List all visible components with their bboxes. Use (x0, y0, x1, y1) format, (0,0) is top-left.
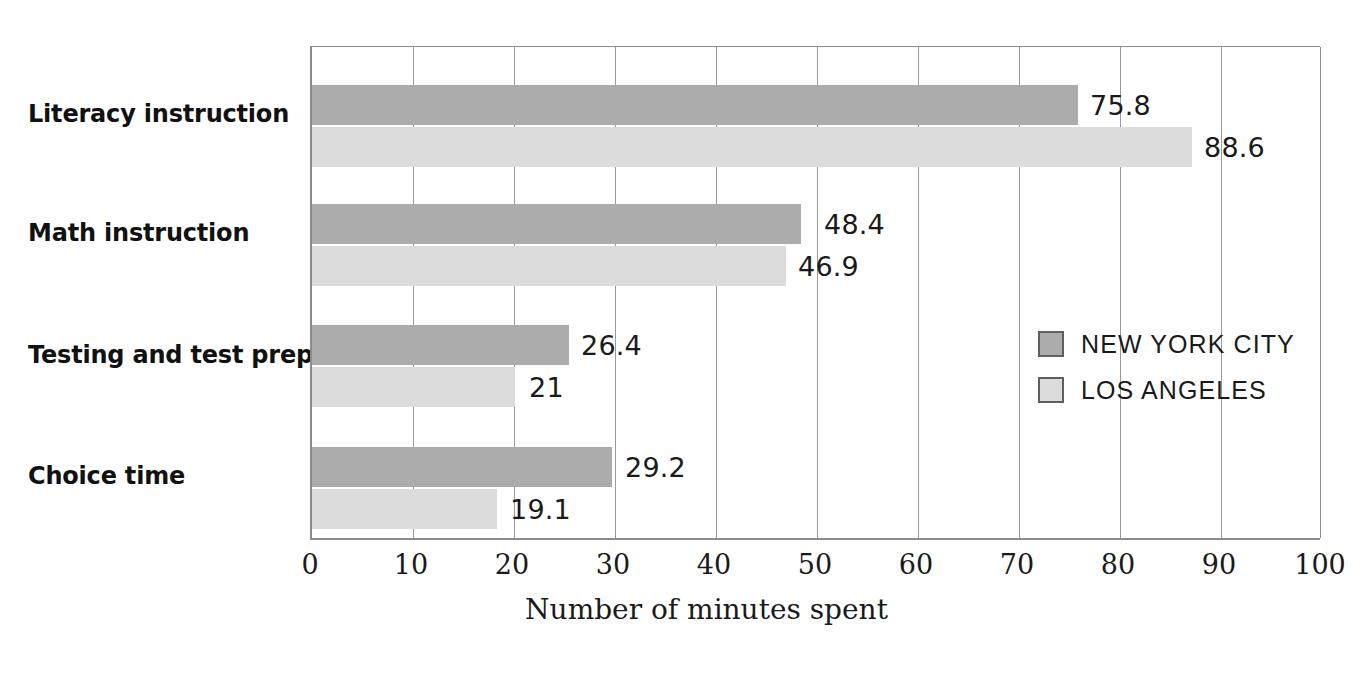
plot-area: 75.8 88.6 48.4 46.9 26.4 21 29.2 19.1 (310, 46, 1320, 540)
legend-swatch-los-angeles (1038, 377, 1064, 403)
x-axis-title: Number of minutes spent (0, 593, 1363, 626)
bar-math-instruction-la (312, 246, 786, 286)
legend-item-new-york-city: NEW YORK CITY (1038, 321, 1295, 367)
category-label-testing-and-test-prep: Testing and test prep (28, 341, 298, 369)
bar-value-math-instruction-nyc: 48.4 (824, 204, 885, 244)
bar-testing-and-test-prep-la (312, 367, 515, 407)
x-tick-30: 30 (573, 549, 653, 580)
x-tick-100: 100 (1280, 549, 1360, 580)
x-tick-80: 80 (1078, 549, 1158, 580)
category-label-math-instruction: Math instruction (28, 219, 298, 247)
bar-literacy-instruction-la (312, 127, 1192, 167)
bar-value-literacy-instruction-la: 88.6 (1204, 127, 1265, 167)
bar-testing-and-test-prep-nyc (312, 325, 569, 365)
legend-item-los-angeles: LOS ANGELES (1038, 367, 1295, 413)
page-scan-remnant (0, 0, 1363, 6)
x-tick-70: 70 (977, 549, 1057, 580)
legend: NEW YORK CITY LOS ANGELES (1038, 321, 1295, 413)
bar-value-testing-and-test-prep-nyc: 26.4 (581, 325, 642, 365)
x-tick-50: 50 (775, 549, 855, 580)
bar-choice-time-nyc (312, 447, 612, 487)
category-label-literacy-instruction: Literacy instruction (28, 100, 298, 128)
x-tick-10: 10 (371, 549, 451, 580)
bar-choice-time-la (312, 489, 497, 529)
x-tick-90: 90 (1179, 549, 1259, 580)
bar-math-instruction-nyc (312, 204, 801, 244)
bar-value-choice-time-nyc: 29.2 (625, 447, 686, 487)
bar-literacy-instruction-nyc (312, 85, 1078, 125)
horizontal-bar-chart: Literacy instruction Math instruction Te… (0, 0, 1363, 679)
x-tick-0: 0 (270, 549, 350, 580)
gridline-90 (1221, 47, 1222, 538)
bar-value-math-instruction-la: 46.9 (798, 246, 859, 286)
bar-value-literacy-instruction-nyc: 75.8 (1090, 85, 1151, 125)
bar-value-testing-and-test-prep-la: 21 (529, 367, 564, 407)
x-tick-40: 40 (674, 549, 754, 580)
x-tick-60: 60 (876, 549, 956, 580)
legend-label-los-angeles: LOS ANGELES (1081, 376, 1267, 405)
gridline-100 (1320, 47, 1321, 538)
legend-swatch-new-york-city (1038, 331, 1064, 357)
bar-value-choice-time-la: 19.1 (510, 489, 571, 529)
category-label-choice-time: Choice time (28, 462, 298, 490)
legend-label-new-york-city: NEW YORK CITY (1081, 330, 1295, 359)
x-tick-20: 20 (472, 549, 552, 580)
